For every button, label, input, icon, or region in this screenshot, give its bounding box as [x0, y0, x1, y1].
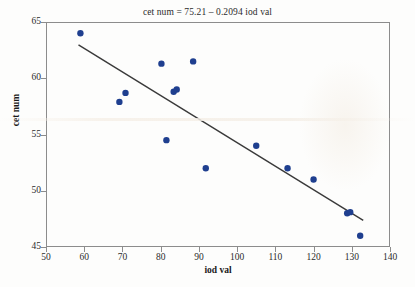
data-point-marker [190, 58, 196, 64]
y-tick-mark [41, 78, 46, 79]
data-point-marker [284, 165, 290, 171]
x-tick-label: 50 [31, 252, 61, 262]
regression-line-segment [78, 45, 363, 221]
x-tick-label: 70 [107, 252, 137, 262]
data-point-marker [310, 176, 316, 182]
y-tick-mark [41, 191, 46, 192]
regression-line [78, 45, 363, 221]
data-point-marker [116, 99, 122, 105]
y-tick-label: 50 [15, 185, 41, 195]
data-point-marker [347, 209, 353, 215]
scatter-plot-figure: cet num = 75.21 – 0.2094 iod val 4550556… [0, 0, 415, 287]
data-point-marker [174, 86, 180, 92]
x-tick-label: 140 [375, 252, 405, 262]
data-point-marker [253, 143, 259, 149]
data-point-marker [203, 165, 209, 171]
data-point-marker [77, 30, 83, 36]
chart-title: cet num = 75.21 – 0.2094 iod val [0, 7, 415, 17]
data-point-marker [158, 60, 164, 66]
plot-canvas [46, 22, 390, 247]
data-point-marker [163, 137, 169, 143]
y-tick-label: 65 [15, 16, 41, 26]
x-tick-label: 90 [184, 252, 214, 262]
x-tick-label: 80 [146, 252, 176, 262]
y-axis-title: cet num [11, 80, 21, 140]
data-points-group [77, 30, 363, 239]
x-tick-label: 130 [337, 252, 367, 262]
y-tick-mark [41, 135, 46, 136]
x-tick-label: 60 [69, 252, 99, 262]
data-point-marker [357, 233, 363, 239]
x-tick-label: 120 [299, 252, 329, 262]
x-tick-label: 100 [222, 252, 252, 262]
y-tick-label: 45 [15, 241, 41, 251]
data-point-marker [122, 90, 128, 96]
y-tick-mark [41, 22, 46, 23]
x-axis-title: iod val [46, 265, 390, 275]
x-tick-label: 110 [260, 252, 290, 262]
